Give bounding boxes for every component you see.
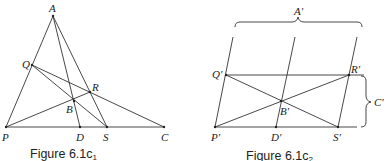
point-S <box>106 126 108 128</box>
line-QC <box>32 65 164 127</box>
label-Q-prime: Q′ <box>212 68 223 80</box>
label-S: S <box>103 131 109 143</box>
point-P <box>5 126 7 128</box>
line-right-parallel <box>338 37 357 127</box>
brace-C-prime <box>361 76 371 127</box>
label-C: C <box>161 131 169 143</box>
label-Q: Q <box>22 58 30 70</box>
brace-A-prime <box>235 17 362 27</box>
label-B: B <box>66 103 73 115</box>
point-C <box>163 126 165 128</box>
label-P: P <box>1 131 9 143</box>
point-A <box>52 15 54 17</box>
line-left-parallel <box>215 37 233 127</box>
point-Q-prime <box>225 74 227 76</box>
point-R-prime <box>348 74 350 76</box>
label-D-prime: D′ <box>270 131 282 143</box>
label-P-prime: P′ <box>210 131 221 143</box>
line-AS <box>53 16 107 127</box>
figure-6-1c2: A′ C′ Q′ R′ B′ P′ D′ S′ Figure 6.1c2 <box>210 5 384 161</box>
point-D <box>79 126 81 128</box>
point-P-prime <box>214 126 216 128</box>
figure-caption-1: Figure 6.1c1 <box>30 147 98 161</box>
label-S-prime: S′ <box>333 131 342 143</box>
point-B <box>73 100 75 102</box>
figure-6-1c1: A Q R B P D S C Figure 6.1c1 <box>1 2 169 161</box>
label-B-prime: B′ <box>280 105 290 117</box>
diagram-canvas: A Q R B P D S C Figure 6.1c1 A′ C′ Q′ <box>0 0 388 161</box>
label-C-prime: C′ <box>374 96 384 108</box>
point-B-prime <box>280 100 282 102</box>
line-QS <box>32 65 107 127</box>
label-A: A <box>48 2 56 14</box>
figure-caption-2: Figure 6.1c2 <box>246 149 314 161</box>
point-R <box>89 91 91 93</box>
point-Q <box>31 64 33 66</box>
point-D-prime <box>275 126 277 128</box>
point-S-prime <box>337 126 339 128</box>
label-R: R <box>91 81 99 93</box>
label-A-prime: A′ <box>293 5 304 17</box>
label-R-prime: R′ <box>350 63 361 75</box>
label-D: D <box>75 131 84 143</box>
